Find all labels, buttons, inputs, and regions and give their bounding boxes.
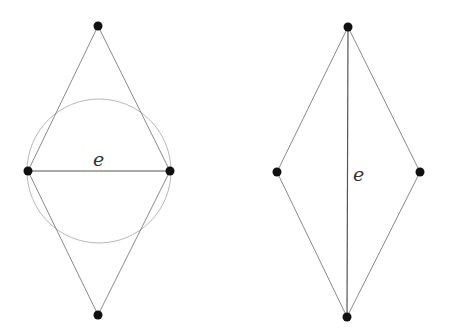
edge-top-left (28, 26, 98, 171)
left-rhombus-with-circle: e (24, 22, 175, 320)
vertex-right (416, 168, 425, 177)
edge-bottom-right (98, 171, 170, 315)
edge-label-e: e (93, 148, 104, 170)
vertex-bottom (94, 311, 103, 320)
vertex-left (24, 167, 33, 176)
graph-diagram-svg: e e (0, 0, 452, 333)
edge-label-e: e (353, 163, 364, 185)
right-rhombus-vertical-diagonal: e (273, 23, 425, 322)
edge-top-right (98, 26, 170, 171)
edge-bottom-left (28, 171, 98, 315)
edge-top-left (277, 27, 348, 172)
vertex-top (94, 22, 103, 31)
edge-top-right (348, 27, 420, 172)
vertex-left (273, 168, 282, 177)
diagram-canvas: e e (0, 0, 452, 333)
vertex-right (166, 167, 175, 176)
edge-bottom-left (277, 172, 347, 317)
edge-bottom-right (347, 172, 420, 317)
edge-e (347, 27, 348, 317)
vertex-top (344, 23, 353, 32)
vertex-bottom (343, 313, 352, 322)
